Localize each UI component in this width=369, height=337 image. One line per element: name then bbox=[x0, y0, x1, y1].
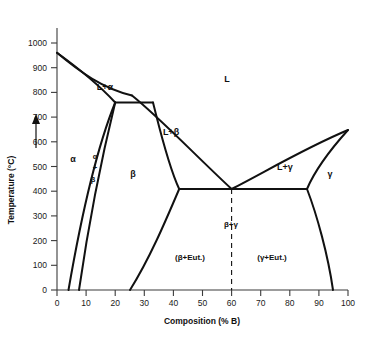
y-tick-label-100: 100 bbox=[33, 260, 47, 270]
y-axis-tick-labels: 0 100 200 300 400 500 600 700 800 900 10… bbox=[28, 38, 47, 295]
x-tick-label-10: 10 bbox=[81, 298, 91, 308]
alpha-beta-right-solvus bbox=[79, 103, 115, 291]
x-tick-label-20: 20 bbox=[110, 298, 120, 308]
label-alpha-plus-beta-stack: α + β bbox=[91, 152, 98, 184]
label-beta: β bbox=[130, 169, 136, 179]
label-plus-stack-mid: + bbox=[93, 163, 98, 172]
gamma-solvus-lower bbox=[307, 189, 333, 290]
x-tick-label-30: 30 bbox=[140, 298, 150, 308]
x-tick-label-60: 60 bbox=[227, 298, 237, 308]
y-tick-label-1000: 1000 bbox=[28, 38, 47, 48]
axis-group bbox=[57, 28, 348, 290]
x-tick-label-40: 40 bbox=[169, 298, 179, 308]
y-tick-label-400: 400 bbox=[33, 186, 47, 196]
label-liquid-plus-beta: L+β bbox=[163, 127, 180, 137]
y-axis-title: Temperature (°C) bbox=[6, 156, 16, 225]
y-tick-label-500: 500 bbox=[33, 162, 47, 172]
beta-solvus-lower bbox=[130, 189, 179, 290]
label-beta-stack-bottom: β bbox=[91, 175, 96, 184]
label-beta-plus-eutectic: (β+Eut.) bbox=[175, 253, 205, 262]
phase-diagram-figure: 0 100 200 300 400 500 600 700 800 900 10… bbox=[0, 0, 369, 337]
x-tick-label-70: 70 bbox=[256, 298, 266, 308]
y-tick-label-0: 0 bbox=[42, 285, 47, 295]
phase-region-labels: L L+α L+β L+γ α β γ β+γ (β+Eut.) (γ+Eut.… bbox=[70, 74, 332, 262]
x-tick-label-90: 90 bbox=[314, 298, 324, 308]
y-tick-label-200: 200 bbox=[33, 236, 47, 246]
liquidus-gamma-branch bbox=[232, 130, 348, 189]
phase-diagram-plot: 0 100 200 300 400 500 600 700 800 900 10… bbox=[0, 0, 369, 337]
x-tick-label-50: 50 bbox=[198, 298, 208, 308]
y-tick-label-300: 300 bbox=[33, 211, 47, 221]
x-axis-ticks bbox=[57, 290, 348, 296]
label-gamma: γ bbox=[327, 169, 332, 179]
alpha-solidus bbox=[57, 53, 115, 103]
x-tick-label-0: 0 bbox=[55, 298, 60, 308]
y-axis-ticks bbox=[51, 43, 57, 290]
label-liquid-plus-alpha: L+α bbox=[97, 82, 114, 92]
y-tick-label-800: 800 bbox=[33, 87, 47, 97]
label-liquid-plus-gamma: L+γ bbox=[277, 162, 293, 172]
y-tick-label-600: 600 bbox=[33, 137, 47, 147]
x-axis-tick-labels: 0 10 20 30 40 50 60 70 80 90 100 bbox=[55, 298, 356, 308]
beta-solidus bbox=[153, 103, 179, 190]
liquidus-left-branch bbox=[57, 53, 132, 96]
x-tick-label-100: 100 bbox=[341, 298, 355, 308]
x-axis-title: Composition (% B) bbox=[164, 316, 240, 326]
x-tick-label-80: 80 bbox=[285, 298, 295, 308]
label-beta-plus-gamma: β+γ bbox=[224, 220, 239, 229]
liquidus-beta-branch bbox=[132, 96, 232, 190]
label-liquid: L bbox=[224, 74, 230, 84]
label-alpha: α bbox=[70, 154, 76, 164]
y-tick-label-900: 900 bbox=[33, 63, 47, 73]
label-alpha-stack-top: α bbox=[93, 152, 98, 161]
label-gamma-plus-eutectic: (γ+Eut.) bbox=[257, 253, 287, 262]
